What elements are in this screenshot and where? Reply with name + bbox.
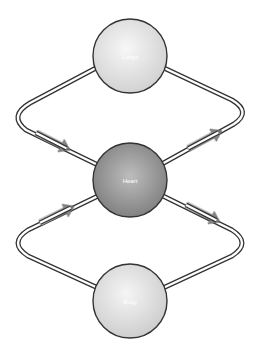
node-label-lungs: Lungs	[122, 54, 138, 60]
arrow-body-to-heart-icon	[37, 200, 77, 229]
pipe-heart-to-lungs	[160, 68, 243, 165]
node-lungs: Lungs	[93, 19, 167, 93]
node-label-heart: Heart	[123, 178, 138, 184]
node-label-body: Body	[123, 299, 137, 305]
pipe-body-to-heart	[18, 195, 100, 288]
node-body: Body	[93, 264, 167, 338]
circulation-diagram: Lungs Heart Body	[0, 0, 259, 359]
arrow-heart-to-lungs-icon	[185, 124, 225, 154]
pipe-heart-to-body	[161, 195, 242, 288]
node-heart: Heart	[93, 143, 167, 217]
